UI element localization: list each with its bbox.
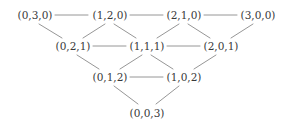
node-label: (0,0,3)	[130, 108, 165, 119]
edge	[194, 55, 216, 69]
hasse-diagram: (0,3,0)(1,2,0)(2,1,0)(3,0,0)(0,2,1)(1,1,…	[0, 0, 292, 127]
node-label: (1,1,1)	[130, 41, 165, 52]
edge	[156, 86, 179, 104]
node-label: (2,0,1)	[204, 41, 239, 52]
edge	[77, 55, 99, 69]
node-label: (0,1,2)	[93, 72, 128, 83]
node-label: (0,2,1)	[56, 41, 91, 52]
edge	[157, 24, 179, 38]
edge	[231, 24, 253, 38]
edge	[120, 55, 142, 69]
edge	[114, 24, 136, 38]
edge	[39, 24, 62, 38]
node-label: (1,2,0)	[93, 10, 128, 21]
node-label: (1,0,2)	[167, 72, 202, 83]
node-label: (2,1,0)	[167, 10, 202, 21]
edge	[83, 24, 105, 38]
edge	[188, 24, 210, 38]
edge	[114, 86, 138, 104]
node-label: (0,3,0)	[18, 10, 53, 21]
node-label: (3,0,0)	[241, 10, 276, 21]
edge	[151, 55, 173, 69]
